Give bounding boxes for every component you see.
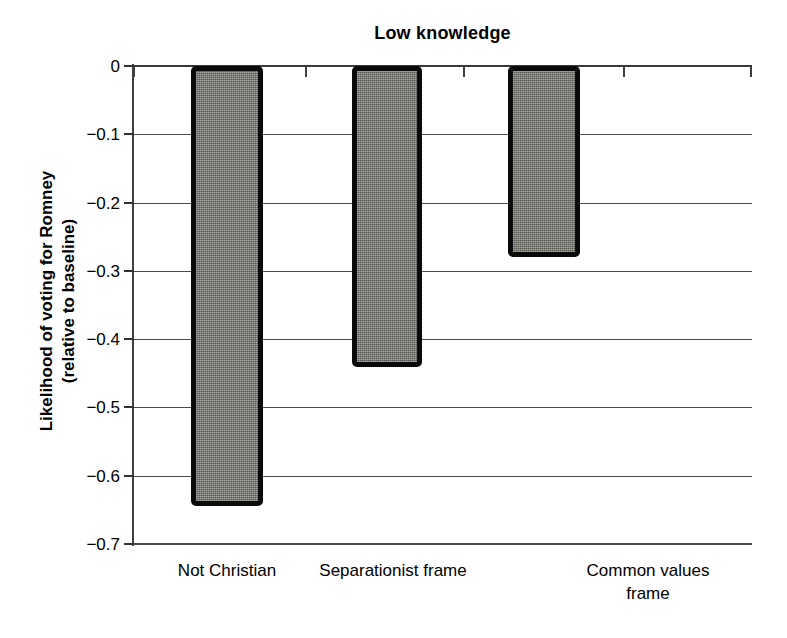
x-tick-mark-2: [463, 66, 465, 77]
y-tick-mark-3: [124, 270, 134, 272]
y-tick-label-7: −0.7: [86, 536, 120, 553]
x-tick-mark-1: [305, 66, 307, 77]
bar-not-christian[interactable]: [191, 66, 263, 506]
y-tick-label-6: −0.6: [86, 467, 120, 484]
y-tick-label-5: −0.5: [86, 399, 120, 416]
x-tick-mark-start: [133, 66, 135, 77]
chart-title: Low knowledge: [133, 22, 752, 44]
y-tick-mark-1: [124, 133, 134, 135]
y-tick-label-2: −0.2: [86, 194, 120, 211]
bar-separationist-frame[interactable]: [352, 66, 422, 367]
y-axis-title: Likelihood of voting for Romney (relativ…: [35, 71, 81, 531]
y-axis-title-line-1: Likelihood of voting for Romney: [36, 171, 58, 432]
bar-chart-figure: Low knowledge Likelihood of voting for R…: [0, 0, 787, 638]
y-tick-label-4: −0.4: [86, 331, 120, 348]
y-tick-label-1: −0.1: [86, 126, 120, 143]
y-tick-mark-6: [124, 475, 134, 477]
y-tick-mark-7: [124, 543, 134, 545]
gridline-7: [133, 543, 752, 545]
x-category-label-common-values-frame-line-2: frame: [558, 582, 738, 605]
x-category-label-common-values-frame: Common values frame: [558, 559, 738, 605]
y-tick-mark-2: [124, 202, 134, 204]
y-tick-mark-4: [124, 338, 134, 340]
plot-area: 0 −0.1 −0.2 −0.3 −0.4 −0.5: [133, 66, 752, 544]
y-axis-title-line-2: (relative to baseline): [58, 219, 80, 383]
y-tick-mark-5: [124, 406, 134, 408]
x-category-label-separationist-frame: Separationist frame: [293, 559, 493, 582]
x-tick-mark-3: [623, 66, 625, 77]
x-tick-mark-end: [750, 66, 752, 77]
bar-common-values-frame[interactable]: [508, 66, 580, 257]
x-category-label-common-values-frame-line-1: Common values: [558, 559, 738, 582]
y-tick-label-0: 0: [111, 58, 120, 75]
y-tick-label-3: −0.3: [86, 262, 120, 279]
x-category-label-separationist-frame-line-1: Separationist frame: [293, 559, 493, 582]
